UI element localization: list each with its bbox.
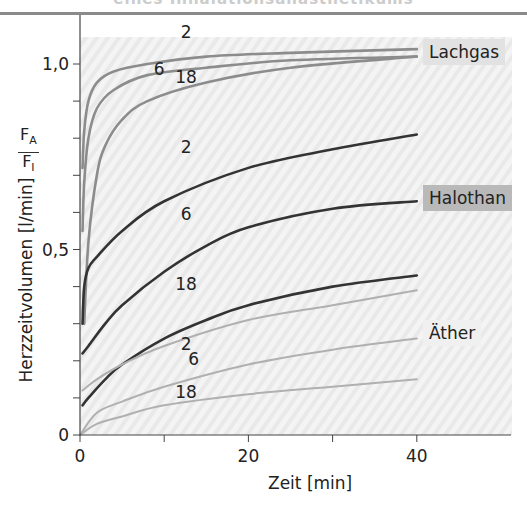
ratio-numerator: F <box>20 125 29 144</box>
y-axis-title: Herzzeitvolumen [l/min] <box>16 170 36 390</box>
legend-lachgas: Lachgas <box>423 39 505 65</box>
curve-label: 6 <box>188 349 199 369</box>
svg-text:40: 40 <box>406 446 428 466</box>
curve-label: 18 <box>175 67 197 87</box>
curve-label: 6 <box>154 59 165 79</box>
x-axis-title: Zeit [min] <box>268 472 352 494</box>
svg-text:1,0: 1,0 <box>42 54 69 74</box>
svg-text:20: 20 <box>238 446 260 466</box>
svg-text:0: 0 <box>75 446 86 466</box>
svg-text:0: 0 <box>58 425 69 445</box>
ratio-denominator: F <box>22 152 31 171</box>
curve-label: 18 <box>175 274 197 294</box>
curve-label: 6 <box>181 204 192 224</box>
svg-text:0,5: 0,5 <box>42 240 69 260</box>
legend-halothan: Halothan <box>423 185 512 211</box>
ratio-numerator-sub: A <box>29 134 37 147</box>
chart-canvas: 00,51,002040 261826182618 <box>0 0 527 506</box>
curve-label: 2 <box>181 22 192 42</box>
legend-aether: Äther <box>423 320 481 346</box>
curve-label: 18 <box>175 382 197 402</box>
plot-background <box>80 37 512 435</box>
curve-label: 2 <box>181 137 192 157</box>
